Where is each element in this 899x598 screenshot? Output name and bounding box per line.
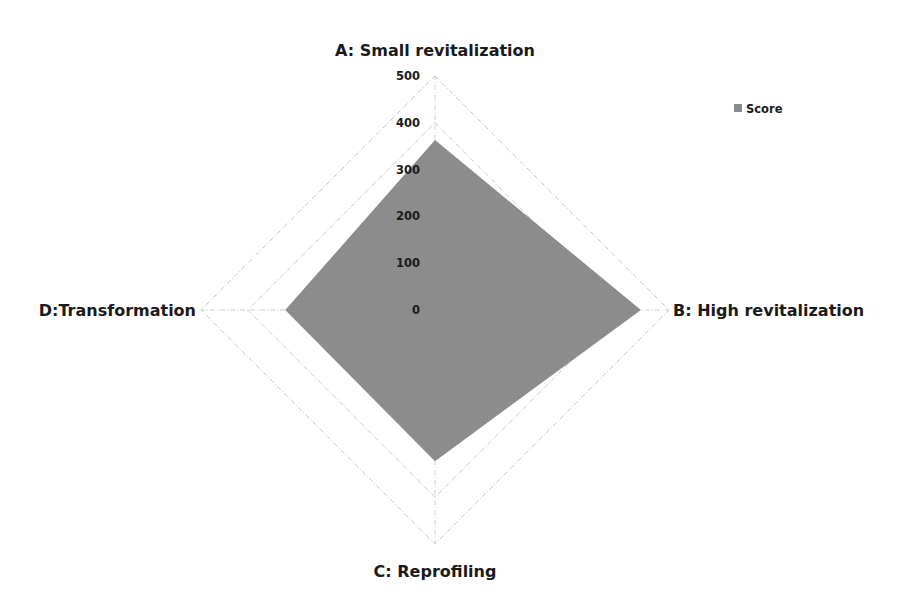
legend: Score <box>734 102 783 116</box>
tick-label-400: 400 <box>396 116 420 130</box>
tick-label-500: 500 <box>396 69 420 83</box>
legend-swatch-score <box>734 104 742 112</box>
tick-label-0: 0 <box>412 303 420 317</box>
tick-label-300: 300 <box>396 163 420 177</box>
category-label-0: A: Small revitalization <box>335 41 535 60</box>
tick-label-200: 200 <box>396 209 420 223</box>
category-label-2: C: Reprofiling <box>374 562 497 581</box>
tick-label-100: 100 <box>396 256 420 270</box>
series-area-score <box>285 140 641 461</box>
category-label-3: D:Transformation <box>39 301 196 320</box>
legend-label-score: Score <box>746 102 783 116</box>
category-label-1: B: High revitalization <box>673 301 864 320</box>
radar-chart: 0100200300400500 A: Small revitalization… <box>0 0 899 598</box>
series-layer <box>285 140 641 461</box>
